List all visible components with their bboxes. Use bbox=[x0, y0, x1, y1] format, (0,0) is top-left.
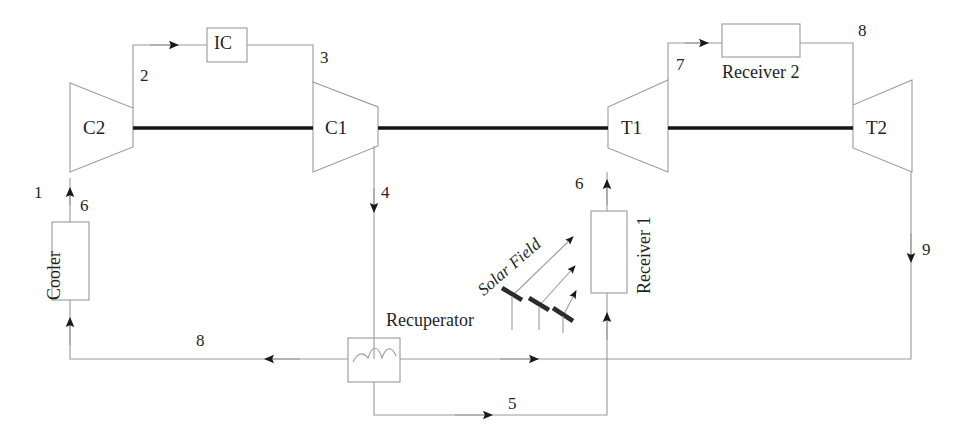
solar-ray-3 bbox=[563, 291, 576, 316]
component-label-cooler: Cooler bbox=[44, 251, 65, 300]
state-point-9: 9 bbox=[922, 240, 931, 260]
state-point-8b: 8 bbox=[196, 331, 205, 351]
receiver1-box bbox=[591, 211, 627, 293]
state-point-7: 7 bbox=[676, 55, 685, 75]
component-label-c1: C1 bbox=[325, 117, 347, 139]
state-point-5: 5 bbox=[508, 394, 517, 414]
state-point-3: 3 bbox=[320, 48, 329, 68]
solar-ray-2 bbox=[539, 266, 575, 306]
state-point-2: 2 bbox=[140, 66, 149, 86]
pipe-8-receiver2-to-t2 bbox=[800, 43, 853, 105]
pipe-8-recuperator-to-cooler bbox=[70, 300, 348, 359]
component-label-receiver-1: Receiver 1 bbox=[634, 217, 655, 294]
state-point-6b: 6 bbox=[575, 174, 584, 194]
solar-mirrors bbox=[502, 288, 573, 321]
pipe-5-recuperator-to-receiver1 bbox=[374, 359, 607, 415]
state-point-8a: 8 bbox=[858, 21, 867, 41]
component-label-recuperator: Recuperator bbox=[386, 310, 474, 331]
component-label-receiver-2: Receiver 2 bbox=[722, 62, 799, 83]
state-point-6a: 6 bbox=[80, 196, 89, 216]
component-label-ic: IC bbox=[214, 33, 232, 54]
component-label-t2: T2 bbox=[866, 117, 887, 139]
pipe-9-t2-exhaust-to-recuperator bbox=[400, 172, 911, 359]
cycle-diagram-canvas: C2 C1 T1 T2 IC Cooler Recuperator Receiv… bbox=[0, 0, 961, 440]
component-label-c2: C2 bbox=[83, 117, 105, 139]
state-point-4: 4 bbox=[381, 183, 390, 203]
state-point-1: 1 bbox=[34, 183, 43, 203]
component-label-t1: T1 bbox=[621, 117, 642, 139]
receiver2-box bbox=[722, 24, 800, 57]
pipe-3-ic-to-c1 bbox=[247, 45, 313, 82]
